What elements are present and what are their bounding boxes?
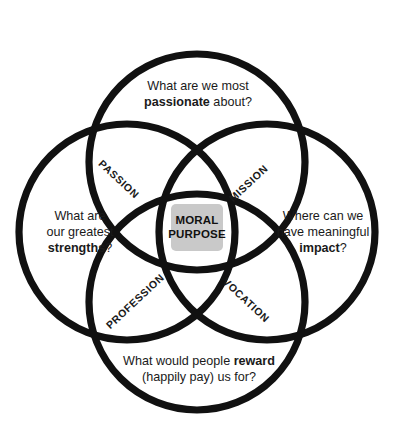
question-right-line3: impact? [262, 240, 384, 256]
question-top-passionate: What are we most passionate about? [118, 78, 278, 110]
question-left-line3: strengths? [22, 240, 138, 256]
question-right-suffix: ? [340, 241, 347, 255]
question-left-bold: strengths [48, 241, 105, 255]
moral-purpose-line1: MORAL [175, 214, 218, 227]
question-bottom-bold: reward [234, 354, 275, 368]
question-right-bold: impact [299, 241, 340, 255]
question-left-strengths: What are our greatest strengths? [22, 208, 138, 256]
question-top-bold: passionate [144, 95, 210, 109]
question-left-suffix: ? [105, 241, 112, 255]
question-top-suffix: about? [210, 95, 252, 109]
question-left-line1: What are [22, 208, 138, 224]
question-left-line2: our greatest [22, 224, 138, 240]
question-top-line2: passionate about? [118, 94, 278, 110]
question-bottom-prefix: What would people [123, 354, 234, 368]
moral-purpose-center-box: MORAL PURPOSE [171, 204, 223, 251]
question-right-line2: have meaningful [262, 224, 384, 240]
moral-purpose-line2: PURPOSE [168, 228, 226, 241]
question-right-line1: Where can we [262, 208, 384, 224]
question-bottom-line1: What would people reward [110, 353, 288, 369]
question-right-impact: Where can we have meaningful impact? [262, 208, 384, 256]
question-bottom-reward: What would people reward (happily pay) u… [110, 353, 288, 385]
question-bottom-line2: (happily pay) us for? [110, 369, 288, 385]
question-top-line1: What are we most [118, 78, 278, 94]
venn-diagram: PASSION MISSION PROFESSION VOCATION What… [0, 0, 395, 446]
